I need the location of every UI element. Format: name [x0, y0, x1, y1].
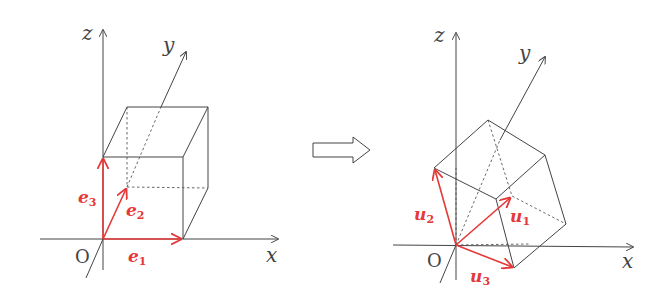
u3-label: u3 — [470, 266, 490, 288]
cube-top-face — [434, 120, 545, 199]
u2-vector — [435, 170, 456, 245]
cube-hidden-top — [488, 120, 566, 224]
y-axis — [161, 52, 186, 107]
z-label: z — [81, 21, 93, 45]
left-cube — [103, 107, 208, 239]
y-label: y — [518, 41, 531, 65]
u1-label: u1 — [510, 206, 530, 228]
x-label: x — [622, 249, 633, 273]
x-label: x — [266, 243, 277, 267]
right-vectors — [435, 170, 512, 267]
left-axes — [40, 30, 278, 278]
cube-hidden-bottom — [456, 244, 531, 245]
cube-transformation-diagram: z y x O e1 e2 e3 z y — [0, 0, 668, 297]
left-figure: z y x O e1 e2 e3 — [40, 21, 278, 278]
e2-vector — [103, 189, 126, 239]
z-label: z — [433, 23, 445, 47]
e3-label: e3 — [78, 187, 96, 209]
u3-vector — [456, 245, 512, 267]
u2-label: u2 — [414, 204, 434, 226]
origin-label: O — [427, 250, 442, 271]
cube-front-edges — [103, 157, 183, 239]
right-axes — [393, 33, 633, 283]
cube-right-edges — [183, 107, 208, 239]
y-axis-neg — [440, 245, 456, 283]
origin-label: O — [75, 246, 90, 267]
left-vectors — [103, 159, 181, 239]
y-label: y — [162, 33, 175, 57]
cube-hidden-edges — [127, 107, 208, 188]
e2-label: e2 — [126, 200, 144, 222]
y-axis — [500, 57, 545, 140]
e1-label: e1 — [128, 246, 146, 268]
x-axis — [393, 245, 633, 247]
y-axis-hidden — [127, 107, 161, 187]
right-figure: z y x O u1 u2 u3 — [393, 23, 633, 288]
transform-arrow-icon — [313, 137, 370, 163]
y-axis-hidden — [456, 140, 500, 245]
cube-top-edges — [103, 107, 208, 157]
